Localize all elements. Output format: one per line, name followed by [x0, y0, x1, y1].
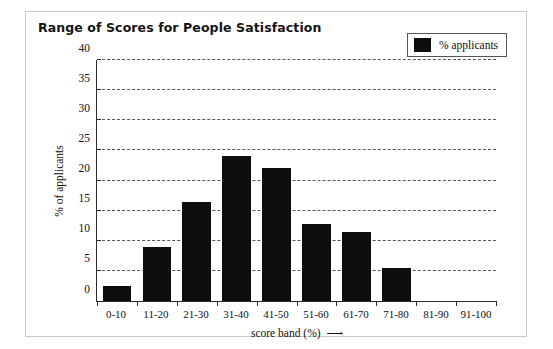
x-tick-mark-71-80 [376, 301, 377, 306]
x-tick-mark-61-70 [336, 301, 337, 306]
x-tick-label-71-80: 71-80 [376, 308, 416, 320]
x-tick-mark-0-10 [97, 301, 98, 306]
x-axis-arrow-icon: ⟶ [327, 326, 342, 340]
bar-slot-21-30 [177, 60, 217, 301]
bar-slot-61-70 [336, 60, 376, 301]
bar-51-60[interactable] [302, 224, 331, 301]
bar-41-50[interactable] [262, 168, 291, 301]
y-tick-label-0: 0 [84, 284, 90, 296]
x-axis-title-text: score band (%) [251, 327, 321, 339]
bar-slot-71-80 [376, 60, 416, 301]
x-tick-mark-end [496, 301, 497, 306]
x-tick-label-91-100: 91-100 [456, 308, 496, 320]
y-tick-label-30: 30 [79, 103, 91, 115]
bar-slot-51-60 [297, 60, 337, 301]
chart-legend: % applicants [407, 33, 507, 57]
bar-slot-91-100 [456, 60, 496, 301]
y-axis-title: % of applicants [53, 145, 65, 217]
y-tick-label-10: 10 [79, 224, 91, 236]
bar-series-applicants [97, 60, 496, 301]
x-tick-mark-11-20 [137, 301, 138, 306]
x-axis-title: score band (%)⟶ [96, 326, 496, 340]
plot-area: 40 35 30 25 20 15 10 5 0 [96, 60, 496, 302]
bar-71-80[interactable] [382, 268, 411, 301]
x-tick-label-41-50: 41-50 [256, 308, 296, 320]
legend-label-applicants: % applicants [439, 39, 498, 51]
bar-61-70[interactable] [342, 232, 371, 301]
x-tick-label-21-30: 21-30 [176, 308, 216, 320]
bar-31-40[interactable] [222, 156, 251, 301]
chart-figure: Range of Scores for People Satisfaction … [25, 11, 527, 337]
y-tick-label-15: 15 [79, 193, 91, 205]
y-tick-label-20: 20 [79, 163, 91, 175]
x-tick-label-81-90: 81-90 [416, 308, 456, 320]
x-tick-label-31-40: 31-40 [216, 308, 256, 320]
y-tick-label-25: 25 [79, 133, 91, 145]
x-tick-mark-41-50 [257, 301, 258, 306]
y-tick-label-35: 35 [79, 73, 91, 85]
bar-slot-81-90 [416, 60, 456, 301]
x-tick-label-11-20: 11-20 [136, 308, 176, 320]
bar-slot-31-40 [217, 60, 257, 301]
legend-swatch-applicants [414, 38, 431, 52]
bar-slot-41-50 [257, 60, 297, 301]
bar-slot-0-10 [97, 60, 137, 301]
x-tick-label-0-10: 0-10 [96, 308, 136, 320]
x-axis-tick-labels: 0-1011-2021-3031-4041-5051-6061-7071-808… [96, 308, 496, 320]
bar-11-20[interactable] [143, 247, 172, 301]
x-tick-label-61-70: 61-70 [336, 308, 376, 320]
bar-0-10[interactable] [103, 286, 132, 301]
y-tick-label-40: 40 [79, 43, 91, 55]
bar-21-30[interactable] [182, 202, 211, 301]
bar-slot-11-20 [137, 60, 177, 301]
x-tick-mark-21-30 [177, 301, 178, 306]
y-tick-label-5: 5 [84, 254, 90, 266]
x-tick-mark-81-90 [416, 301, 417, 306]
chart-title: Range of Scores for People Satisfaction [38, 20, 321, 35]
x-tick-mark-31-40 [217, 301, 218, 306]
x-tick-mark-91-100 [456, 301, 457, 306]
x-tick-mark-51-60 [297, 301, 298, 306]
x-tick-label-51-60: 51-60 [296, 308, 336, 320]
